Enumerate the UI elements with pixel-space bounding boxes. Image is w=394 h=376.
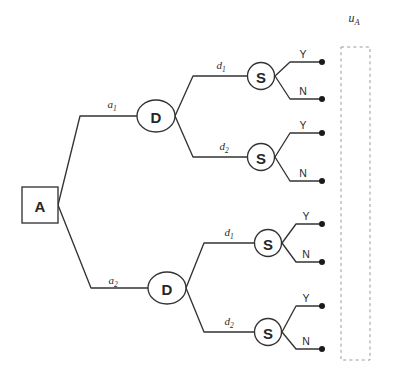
- outcome-5-path: [282, 224, 322, 243]
- edge-a1-path: [58, 116, 137, 205]
- edge-d2-bottom-path: [186, 288, 255, 332]
- utility-dashed-box: [341, 47, 370, 360]
- terminal-dot-1: [319, 59, 325, 65]
- outcome-5-label: Y: [302, 210, 309, 222]
- edge-group-root: [58, 116, 148, 288]
- outcome-7-path: [282, 306, 322, 332]
- terminal-dot-5: [319, 221, 325, 227]
- edge-a1-sub: 1: [113, 104, 117, 113]
- svg-text:a1: a1: [107, 98, 116, 113]
- svg-text:d1: d1: [216, 59, 225, 74]
- outcome-6-label: N: [302, 248, 310, 260]
- node-chance-1[interactable]: S: [248, 63, 275, 90]
- outcome-7-label: Y: [302, 292, 309, 304]
- terminal-dot-4: [319, 178, 325, 184]
- chance-2-label: S: [256, 150, 266, 167]
- node-decision-bottom[interactable]: D: [148, 272, 186, 304]
- terminal-dot-6: [319, 259, 325, 265]
- root-label: A: [35, 198, 46, 215]
- svg-text:d2: d2: [224, 315, 234, 330]
- decision-top-label: D: [151, 109, 162, 126]
- edge-d1-top-path: [175, 76, 248, 116]
- edge-d1-bottom-sub: 1: [230, 232, 234, 241]
- edge-d1-top-sub: 1: [222, 65, 226, 74]
- label-edge-a2: a2: [108, 274, 118, 289]
- svg-text:a2: a2: [108, 274, 118, 289]
- decision-bottom-label: D: [162, 281, 173, 298]
- edge-a2-path: [58, 205, 148, 288]
- outcome-4-label: N: [299, 167, 307, 179]
- node-root-a[interactable]: A: [22, 187, 58, 223]
- edge-a2-sub: 2: [114, 280, 118, 289]
- label-edge-d2-top: d2: [219, 140, 229, 155]
- node-decision-top[interactable]: D: [137, 100, 175, 132]
- label-edge-d2-bottom: d2: [224, 315, 234, 330]
- chance-3-label: S: [263, 236, 273, 253]
- terminal-dot-2: [319, 96, 325, 102]
- outcome-1-path: [275, 62, 322, 76]
- utility-sub: A: [353, 17, 360, 27]
- chance-1-label: S: [256, 69, 266, 86]
- outcome-1-label: Y: [299, 48, 306, 60]
- svg-text:d1: d1: [224, 226, 233, 241]
- svg-text:d2: d2: [219, 140, 229, 155]
- diagram-canvas: A D D S S S S a1: [0, 0, 394, 376]
- edge-group-decision-bottom: [186, 243, 255, 332]
- edge-d2-bottom-sub: 2: [230, 321, 234, 330]
- outcome-3-path: [275, 133, 322, 157]
- edge-d2-top-path: [175, 116, 248, 157]
- terminal-dot-7: [319, 303, 325, 309]
- edge-d1-bottom-path: [186, 243, 255, 288]
- outcome-2-label: N: [299, 85, 307, 97]
- edge-group-decision-top: [175, 76, 248, 157]
- node-chance-4[interactable]: S: [255, 319, 282, 346]
- svg-text:uA: uA: [348, 11, 360, 27]
- terminal-dot-group: [319, 59, 325, 352]
- chance-4-label: S: [263, 325, 273, 342]
- utility-column: uA: [341, 11, 370, 360]
- outcome-3-label: Y: [299, 119, 306, 131]
- label-outcome-group: Y N Y N Y N Y N: [299, 48, 310, 347]
- label-edge-d1-bottom: d1: [224, 226, 233, 241]
- terminal-dot-3: [319, 130, 325, 136]
- node-chance-3[interactable]: S: [255, 230, 282, 257]
- label-edge-a1: a1: [107, 98, 116, 113]
- outcome-8-label: N: [302, 335, 310, 347]
- edge-group-outcomes: [275, 62, 322, 349]
- node-chance-2[interactable]: S: [248, 144, 275, 171]
- edge-d2-top-sub: 2: [225, 146, 229, 155]
- terminal-dot-8: [319, 346, 325, 352]
- label-edge-d1-top: d1: [216, 59, 225, 74]
